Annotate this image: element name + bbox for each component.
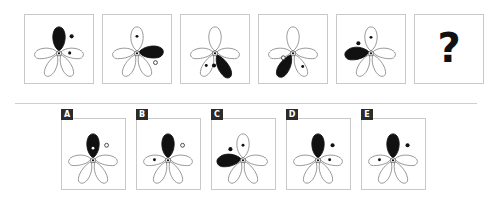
mark-filled-dot	[356, 41, 360, 45]
mark-filled-dot	[228, 147, 232, 151]
mark-white-dot	[92, 147, 95, 150]
mark-filled-dot	[378, 158, 381, 161]
option-panel-d[interactable]: D	[286, 118, 351, 190]
option-panel-e[interactable]: E	[361, 118, 426, 190]
mark-filled-dot	[212, 63, 216, 67]
mark-filled-dot	[406, 143, 410, 147]
divider	[15, 103, 477, 104]
mark-filled-dot	[331, 143, 335, 147]
flower-figure-2	[103, 15, 171, 83]
option-panel-a[interactable]: A	[61, 118, 126, 190]
question-mark: ?	[415, 15, 483, 83]
flower-figure-option-c	[212, 119, 275, 189]
flower-figure-1	[25, 15, 93, 83]
flower-figure-4	[259, 15, 327, 83]
sequence-panel-5	[336, 14, 406, 84]
mark-filled-dot	[370, 36, 373, 39]
flower-figure-3	[181, 15, 249, 83]
mark-hollow-dot	[281, 56, 285, 60]
mark-hollow-dot	[154, 61, 158, 65]
flower-figure-5	[337, 15, 405, 83]
mark-hollow-dot	[105, 143, 109, 147]
mark-filled-dot	[328, 158, 331, 161]
mark-filled-dot	[301, 65, 304, 68]
option-panel-b[interactable]: B	[136, 118, 201, 190]
mark-filled-dot	[153, 158, 156, 161]
mark-hollow-dot	[181, 143, 185, 147]
option-panel-c[interactable]: C	[211, 118, 276, 190]
mark-filled-dot	[70, 34, 74, 38]
flower-figure-option-d	[287, 119, 350, 189]
flower-figure-option-a	[62, 119, 125, 189]
mark-filled-dot	[136, 35, 139, 38]
sequence-panel-question[interactable]: ?	[414, 14, 484, 84]
sequence-panel-4	[258, 14, 328, 84]
mark-filled-dot	[242, 144, 245, 147]
puzzle-stage: ? A B	[0, 0, 492, 201]
sequence-panel-2	[102, 14, 172, 84]
flower-figure-option-e	[362, 119, 425, 189]
flower-figure-option-b	[137, 119, 200, 189]
mark-filled-dot	[68, 51, 71, 54]
mark-filled-dot	[205, 64, 208, 67]
sequence-panel-1	[24, 14, 94, 84]
sequence-panel-3	[180, 14, 250, 84]
